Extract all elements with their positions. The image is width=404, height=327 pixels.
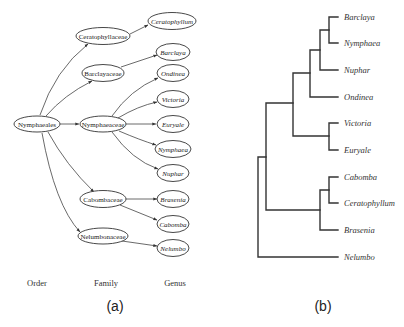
node-family-nelumbonaceae: Nelumbonaceae	[78, 228, 128, 244]
clade-cabomba-ceratophyllum	[329, 177, 338, 203]
edge-nymphaeaceae-victoria	[118, 102, 157, 118]
node-label: Nymphaeales	[18, 121, 56, 129]
node-family-cabombaceae: Cabombaceae	[80, 191, 126, 208]
node-label: Victoria	[162, 96, 185, 104]
figure: Nymphaeales Ceratophyllaceae Barclayacea…	[0, 0, 404, 327]
taxonomy-graph: Nymphaeales Ceratophyllaceae Barclayacea…	[14, 13, 196, 315]
leaf-label-ceratophyllum: Ceratophyllum	[344, 198, 395, 208]
edge-ceratophyllaceae-ceratophyllum	[130, 25, 148, 34]
node-label: Barclaya	[160, 49, 186, 57]
leaf-label-nuphar: Nuphar	[343, 65, 371, 75]
node-label: Ceratophyllaceae	[79, 33, 128, 41]
leaf-label-nelumbo: Nelumbo	[343, 252, 375, 262]
node-order-nymphaeales: Nymphaeales	[14, 116, 60, 132]
leaf-label-barclaya: Barclaya	[344, 12, 375, 22]
edge-nymphaeaceae-nymphaea	[119, 131, 156, 145]
node-label: Euryale	[161, 121, 184, 129]
clade-nymphaeaceae	[293, 73, 329, 136]
node-genus-nymphaea: Nymphaea	[155, 141, 191, 158]
node-family-nymphaeaceae: Nymphaeaceae	[80, 116, 126, 132]
clade-victoria-euryale	[329, 123, 338, 150]
node-genus-victoria: Victoria	[157, 91, 189, 108]
node-genus-euryale: Euryale	[157, 116, 189, 133]
edge-nelumbonaceae-nelumbo	[122, 241, 157, 246]
leaf-label-victoria: Victoria	[344, 118, 371, 128]
node-label: Brasenia	[160, 196, 186, 204]
edge-nymphaeaceae-ondinea	[112, 78, 158, 116]
node-genus-barclaya: Barclaya	[156, 44, 190, 61]
node-genus-nuphar: Nuphar	[157, 165, 189, 182]
node-label: Ondinea	[161, 70, 186, 78]
node-label: Cabombaceae	[83, 196, 122, 204]
edge-nymphaeales-nelumbonaceae	[42, 133, 80, 232]
family-genus-edges	[112, 25, 158, 246]
clade-with-ondinea	[310, 50, 338, 97]
node-label: Nelumbonaceae	[80, 233, 125, 241]
node-genus-ondinea: Ondinea	[157, 65, 189, 82]
tree-branches	[258, 17, 338, 257]
node-label: Cabomba	[159, 221, 187, 229]
phylogenetic-tree: Barclaya Nymphaea Nuphar Ondinea Victori…	[258, 12, 395, 314]
clade-barclaya-nymphaea	[329, 17, 338, 43]
node-family-barclayaceae: Barclayaceae	[82, 65, 124, 82]
node-label: Nelumbo	[159, 245, 186, 253]
node-genus-cabomba: Cabomba	[157, 216, 189, 233]
edge-nymphaeales-cabombaceae	[48, 132, 94, 192]
node-label: Ceratophyllum	[151, 18, 193, 26]
node-label: Nymphaea	[157, 146, 188, 154]
node-genus-brasenia: Brasenia	[157, 191, 189, 208]
leaf-label-cabomba: Cabomba	[344, 172, 377, 182]
node-genus-nelumbo: Nelumbo	[157, 240, 189, 257]
column-label-order: Order	[27, 278, 47, 288]
clade-root	[258, 157, 338, 257]
panel-label-b: (b)	[314, 298, 331, 314]
edge-cabombaceae-cabomba	[120, 205, 157, 220]
column-label-family: Family	[94, 278, 119, 288]
column-label-genus: Genus	[164, 278, 186, 288]
edge-nymphaeales-ceratophyllaceae	[40, 44, 88, 115]
node-label: Barclayaceae	[84, 70, 121, 78]
leaf-label-ondinea: Ondinea	[344, 92, 373, 102]
node-genus-ceratophyllum: Ceratophyllum	[148, 13, 196, 30]
node-label: Nuphar	[161, 170, 184, 178]
leaf-label-nymphaea: Nymphaea	[343, 38, 380, 48]
panel-label-a: (a)	[106, 298, 123, 314]
node-label: Nymphaeaceae	[82, 121, 125, 129]
node-family-ceratophyllaceae: Ceratophyllaceae	[76, 28, 130, 45]
leaf-label-euryale: Euryale	[343, 145, 371, 155]
tree-leaves: Barclaya Nymphaea Nuphar Ondinea Victori…	[343, 12, 395, 262]
leaf-label-brasenia: Brasenia	[344, 225, 375, 235]
edge-barclayaceae-barclaya	[121, 55, 157, 67]
